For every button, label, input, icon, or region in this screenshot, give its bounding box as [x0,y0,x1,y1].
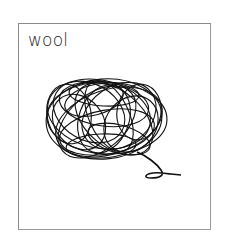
wool-ball-icon [19,24,212,231]
wool-card[interactable]: wool [18,23,211,230]
